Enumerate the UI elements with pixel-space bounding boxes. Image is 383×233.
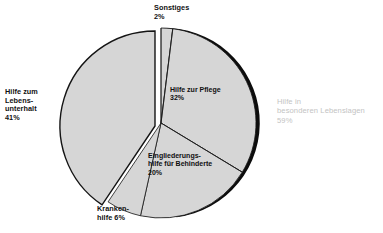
slice-label-hilfe-zum-lebensunterhalt: Hilfe zum Lebens- unterhalt 41% xyxy=(5,88,38,122)
slice-label-hilfe-zur-pflege: Hilfe zur Pflege 32% xyxy=(170,86,221,103)
slice-label-krankenhilfe: Kranken- hilfe 6% xyxy=(97,205,129,222)
slice-label-sonstiges: Sonstiges 2% xyxy=(154,4,189,21)
pie-chart-figure: Sonstiges 2% Hilfe zum Lebens- unterhalt… xyxy=(0,0,383,233)
group-label-hilfe-in-besonderen-lebenslagen: Hilfe in besonderen Lebenslagen 59% xyxy=(277,97,365,125)
slice-label-eingliederungshilfe: Eingliederungs- hilfe für Behinderte 20% xyxy=(148,152,212,177)
